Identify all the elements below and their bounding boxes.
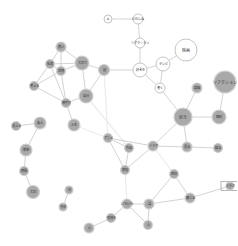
graph-node[interactable]: ドラマ xyxy=(148,141,158,151)
graph-node[interactable]: 気持ち xyxy=(107,214,116,223)
network-graph: Aいわしねリアクション映画好きをテレビ書く高級リアクション好き個別思い私達大切さ… xyxy=(0,0,237,246)
graph-node[interactable]: 映画 xyxy=(175,39,197,61)
graph-node[interactable]: アニメ xyxy=(104,134,113,143)
edge-layer xyxy=(16,19,230,228)
graph-node[interactable]: 好き xyxy=(174,108,192,126)
graph-node[interactable]: 書く xyxy=(155,83,165,93)
node-label: 国 xyxy=(103,67,106,72)
node-label: いわしね xyxy=(132,16,145,21)
node-label: 今日 xyxy=(60,204,66,209)
faint-edge-n16-n28 xyxy=(104,70,108,138)
node-label: 好き xyxy=(179,114,187,120)
graph-node[interactable]: 今日 xyxy=(59,203,67,211)
edge-n34-n38 xyxy=(149,174,174,204)
graph-node[interactable]: A xyxy=(104,15,112,23)
graph-node[interactable]: 私達 xyxy=(46,60,55,69)
graph-node[interactable]: 好きを xyxy=(133,63,147,77)
node-label: 人生 xyxy=(71,122,78,127)
graph-node[interactable]: 時間 xyxy=(20,167,29,176)
node-label: 書く xyxy=(157,85,163,90)
node-label: リアクション xyxy=(213,79,237,85)
graph-node[interactable]: 個別 xyxy=(212,110,226,124)
node-label: 好きを xyxy=(136,67,145,72)
node-layer: Aいわしねリアクション映画好きをテレビ書く高級リアクション好き個別思い私達大切さ… xyxy=(12,14,238,233)
graph-node[interactable]: 話 xyxy=(144,199,154,209)
node-label: 面白 xyxy=(171,171,177,176)
node-label: 友人 xyxy=(37,120,44,125)
node-label: 気持ち xyxy=(107,215,116,220)
graph-node[interactable]: 大切さ xyxy=(75,56,89,70)
node-label: 観る xyxy=(215,145,221,150)
node-label: 作品 xyxy=(126,145,132,150)
node-label: 家族 xyxy=(23,147,30,152)
graph-node[interactable]: いろいろ xyxy=(121,199,133,209)
node-label: ビデオ xyxy=(226,183,235,188)
node-label: 見える xyxy=(12,123,21,128)
node-label: 自分 xyxy=(83,93,90,98)
edge-n35-n38 xyxy=(149,198,190,204)
node-label: 世界 xyxy=(58,68,65,73)
graph-node[interactable]: 考える xyxy=(30,82,39,91)
graph-node[interactable]: 相手方 xyxy=(62,99,71,108)
graph-node[interactable]: 心 xyxy=(84,223,94,233)
node-label: リアクション xyxy=(131,40,149,45)
node-label: 考える xyxy=(30,83,39,88)
node-label: 思い xyxy=(58,45,64,49)
graph-node[interactable]: 感じる xyxy=(185,193,195,203)
graph-node[interactable]: リアクション xyxy=(213,71,237,93)
graph-node[interactable]: 世界 xyxy=(57,67,66,76)
node-label: 映画 xyxy=(182,47,190,53)
node-label: 表現 xyxy=(122,167,129,172)
graph-node[interactable]: 表現 xyxy=(121,166,130,175)
graph-node[interactable]: 人生 xyxy=(68,119,80,131)
graph-node[interactable]: リアクション xyxy=(131,38,149,48)
node-label: 私達 xyxy=(47,61,54,66)
graph-node[interactable]: 国 xyxy=(99,65,110,76)
node-label: 大切 xyxy=(30,189,36,194)
graph-node[interactable]: 友人 xyxy=(34,117,46,129)
graph-node[interactable]: 見る xyxy=(182,142,192,152)
node-label: 相手方 xyxy=(62,100,71,105)
node-label: いろいろ xyxy=(121,201,133,206)
graph-node[interactable]: 作品 xyxy=(125,144,134,153)
node-label: 見る xyxy=(184,144,190,149)
graph-node[interactable]: ビデオ xyxy=(221,182,237,191)
graph-node[interactable]: 家族 xyxy=(20,144,32,156)
node-label: アニメ xyxy=(104,135,113,140)
node-label: ドラマ xyxy=(149,143,158,148)
node-label: 大切さ xyxy=(78,60,87,65)
node-label: 高級 xyxy=(194,85,201,90)
node-label: 日 xyxy=(68,188,71,192)
graph-node[interactable]: 自分 xyxy=(79,89,93,103)
node-label: 個別 xyxy=(216,114,222,119)
node-label: テレビ xyxy=(159,61,168,66)
graph-node[interactable]: 人 xyxy=(144,221,153,230)
graph-node[interactable]: 日 xyxy=(65,186,73,194)
graph-node[interactable]: 見える xyxy=(12,122,21,131)
graph-node[interactable]: 高級 xyxy=(192,83,202,93)
edge-n28-n30 xyxy=(108,138,125,170)
graph-node[interactable]: 思い xyxy=(56,42,66,52)
graph-node[interactable]: 観る xyxy=(214,144,223,153)
node-label: 時間 xyxy=(21,168,27,173)
graph-node[interactable]: 大切 xyxy=(27,186,40,199)
graph-node[interactable]: 面白 xyxy=(170,170,179,179)
edge-n35-n36 xyxy=(190,186,230,198)
graph-node[interactable]: テレビ xyxy=(156,57,170,71)
graph-node[interactable]: いわしね xyxy=(132,14,145,24)
node-label: 感じる xyxy=(186,195,195,200)
